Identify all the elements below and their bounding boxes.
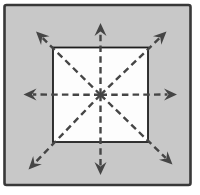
- diagram-canvas: [0, 0, 200, 195]
- expansion-arrows-diagram: [0, 0, 200, 195]
